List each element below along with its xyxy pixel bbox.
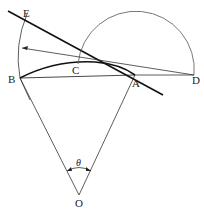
label-E: E — [23, 7, 30, 19]
arrow-line-D — [22, 48, 194, 75]
diagram-svg: E B C A D O θ — [0, 0, 204, 210]
geometry-diagram: E B C A D O θ — [0, 0, 204, 210]
arc-EB — [18, 14, 30, 100]
radius-OB — [20, 78, 79, 195]
semicircle — [78, 11, 194, 75]
label-O: O — [75, 197, 83, 209]
arrowhead-icon — [22, 46, 28, 50]
theta-arrow-left-icon — [67, 167, 72, 171]
label-D: D — [192, 74, 200, 86]
radius-OA — [79, 75, 135, 195]
label-C: C — [72, 64, 79, 76]
label-A: A — [132, 77, 140, 89]
label-B: B — [8, 73, 15, 85]
label-theta: θ — [76, 157, 81, 168]
